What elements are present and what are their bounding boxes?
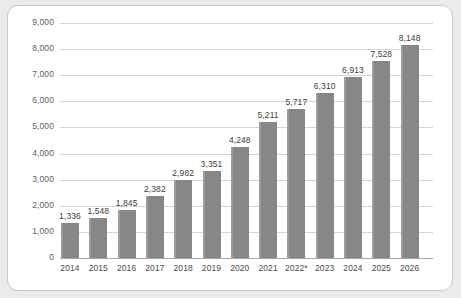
bar-value-label: 5,211 (248, 110, 288, 120)
bar (61, 223, 79, 258)
bar-value-label: 2,382 (135, 184, 175, 194)
bar (287, 109, 305, 258)
bar-value-label: 3,351 (192, 159, 232, 169)
bar-value-label: 6,310 (305, 81, 345, 91)
bar-value-label: 6,913 (333, 65, 373, 75)
y-axis-tick-label: 7,000 (10, 69, 54, 79)
bar-value-label: 1,845 (107, 198, 147, 208)
bar (146, 196, 164, 258)
bar (89, 218, 107, 258)
bar (203, 171, 221, 258)
bar-value-label: 8,148 (390, 33, 430, 43)
y-axis-tick-label: 3,000 (10, 174, 54, 184)
y-axis-tick-label: 1,000 (10, 226, 54, 236)
y-axis-tick-label: 0 (10, 252, 54, 262)
bar (231, 147, 249, 258)
y-axis-tick-label: 4,000 (10, 148, 54, 158)
y-axis-tick-label: 9,000 (10, 17, 54, 27)
bar (174, 180, 192, 258)
bar (118, 210, 136, 258)
x-axis-tick-label: 2026 (390, 263, 430, 273)
gridline (60, 23, 433, 24)
axis-baseline (60, 258, 433, 259)
bar-value-label: 5,717 (276, 97, 316, 107)
bar-value-label: 7,528 (361, 49, 401, 59)
bar-value-label: 4,248 (220, 135, 260, 145)
bar (372, 61, 390, 258)
y-axis-tick-label: 5,000 (10, 121, 54, 131)
y-axis-tick-label: 6,000 (10, 95, 54, 105)
bar (401, 45, 419, 258)
bar-value-label: 2,982 (163, 168, 203, 178)
chart-card: 01,0002,0003,0004,0005,0006,0007,0008,00… (7, 5, 453, 291)
y-axis-tick-label: 2,000 (10, 200, 54, 210)
y-axis-tick-label: 8,000 (10, 43, 54, 53)
bar-chart-plot: 01,0002,0003,0004,0005,0006,0007,0008,00… (8, 6, 454, 292)
bar (344, 77, 362, 258)
bar (316, 93, 334, 258)
bar (259, 122, 277, 258)
